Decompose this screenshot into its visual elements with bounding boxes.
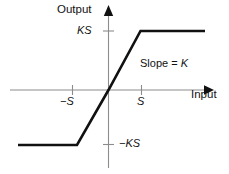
saturation-transfer-figure: Output Input KS −KS −S S Slope = K: [0, 0, 229, 174]
slope-annotation-prefix: Slope =: [140, 57, 181, 69]
axis-group: [10, 5, 214, 168]
slope-annotation: Slope = K: [140, 58, 188, 69]
x-tick-label-neg-s: −S: [60, 96, 74, 107]
x-axis-label: Input: [191, 89, 217, 101]
y-axis-label: Output: [57, 4, 92, 16]
slope-annotation-symbol: K: [181, 57, 188, 69]
y-tick-label-ks: KS: [77, 25, 92, 36]
x-tick-label-pos-s: S: [137, 96, 144, 107]
y-axis-arrow-icon: [104, 5, 113, 16]
plot-canvas: [0, 0, 229, 174]
saturation-curve: [18, 31, 205, 145]
y-tick-label-neg-ks: −KS: [119, 138, 140, 149]
